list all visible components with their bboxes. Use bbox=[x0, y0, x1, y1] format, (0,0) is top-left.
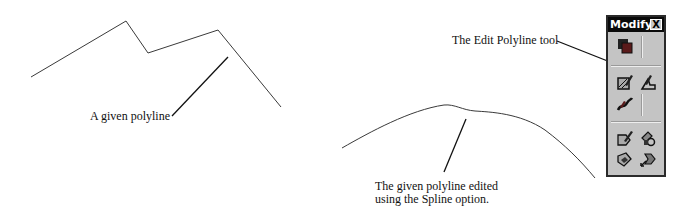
spline-leader-line bbox=[444, 119, 466, 172]
properties-icon[interactable] bbox=[616, 37, 634, 55]
edit-spline-icon[interactable] bbox=[616, 95, 634, 113]
toolbar-title: Modify bbox=[610, 17, 652, 32]
given-polyline bbox=[31, 21, 281, 107]
toolbar-separator bbox=[641, 36, 643, 58]
modify-toolbar: Modify X bbox=[606, 15, 666, 177]
edit-polyline-icon[interactable] bbox=[639, 73, 657, 91]
toolbar-separator bbox=[611, 65, 661, 67]
block-attribute-manager-icon[interactable] bbox=[639, 129, 657, 147]
edit-hatch-icon[interactable] bbox=[616, 73, 634, 91]
edit-polyline-tool-label: The Edit Polyline tool bbox=[452, 34, 558, 47]
attribute-extract-icon[interactable] bbox=[639, 150, 657, 168]
toolbar-separator bbox=[611, 121, 661, 123]
spline-curve bbox=[342, 105, 595, 178]
toolbar-title-bar[interactable]: Modify X bbox=[608, 17, 664, 32]
edit-attribute-icon[interactable] bbox=[616, 129, 634, 147]
polyline-leader-line bbox=[172, 57, 228, 116]
given-polyline-label: A given polyline bbox=[90, 110, 170, 123]
close-button[interactable]: X bbox=[650, 19, 662, 30]
sync-attributes-icon[interactable] bbox=[616, 150, 634, 168]
spline-caption-line2: using the Spline option. bbox=[375, 193, 489, 206]
toolbar-separator bbox=[641, 94, 643, 116]
